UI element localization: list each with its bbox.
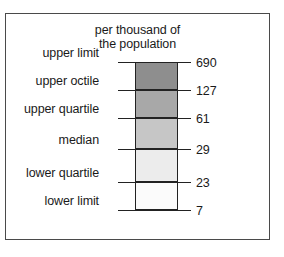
marker-label-median: median [59,133,99,147]
marker-value-upper-limit: 690 [196,56,217,70]
marker-value-lower-limit: 7 [196,204,203,218]
tick-lower-limit [173,210,191,211]
tick-lower-quartile [173,182,191,183]
tick-upper-octile [173,90,191,91]
band-lower-quartile-to-lower-limit [136,182,177,210]
leader-line-lower-limit [118,210,174,211]
band-upper-limit-to-upper-octile [136,62,177,90]
tick-upper-quartile [173,118,191,119]
marker-label-lower-limit: lower limit [45,194,99,208]
leader-line-upper-octile [118,90,174,91]
chart-title-line-1: per thousand of [6,24,269,38]
marker-label-upper-limit: upper limit [42,46,99,60]
stacked-bar [135,62,178,210]
leader-line-lower-quartile [118,182,174,183]
marker-value-upper-quartile: 61 [196,112,210,126]
plot-area: upper limit 690 upper octile 127 upper q… [6,62,269,234]
tick-upper-limit [173,62,191,63]
leader-line-upper-limit [118,62,174,63]
chart-figure: per thousand of the population upper lim… [5,13,270,240]
marker-label-upper-quartile: upper quartile [24,102,99,116]
leader-line-upper-quartile [118,118,174,119]
leader-line-median [118,149,174,150]
band-upper-octile-to-upper-quartile [136,90,177,118]
band-median-to-lower-quartile [136,149,177,182]
band-upper-quartile-to-median [136,118,177,149]
marker-value-median: 29 [196,143,210,157]
marker-value-upper-octile: 127 [196,84,217,98]
marker-label-upper-octile: upper octile [36,74,99,88]
marker-label-lower-quartile: lower quartile [26,166,99,180]
marker-value-lower-quartile: 23 [196,176,210,190]
tick-median [173,149,191,150]
